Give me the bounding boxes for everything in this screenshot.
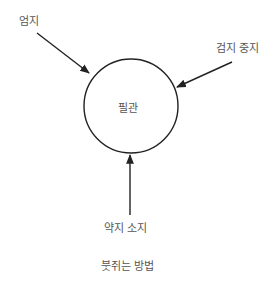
thumb-arrow	[37, 33, 89, 73]
brush-shaft-label: 필관	[118, 99, 138, 115]
thumb-label: 엄지	[19, 12, 39, 28]
ring-little-label: 약지 소지	[104, 219, 148, 235]
index-middle-label: 검지 중지	[216, 39, 260, 55]
index-middle-arrow	[177, 62, 232, 87]
diagram-caption: 붓쥐는 방법	[101, 257, 155, 273]
